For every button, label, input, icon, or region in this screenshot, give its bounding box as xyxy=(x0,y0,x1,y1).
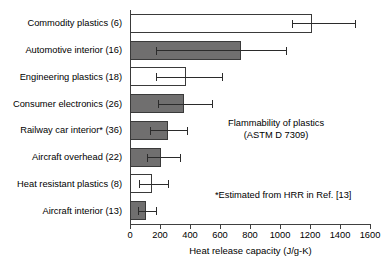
category-label: Consumer electronics (26) xyxy=(0,99,122,109)
error-bar-cap-low xyxy=(150,127,151,135)
error-bar-cap-low xyxy=(138,207,139,215)
error-bar-cap-high xyxy=(156,207,157,215)
chart-annotation-title: Flammability of plastics (ASTM D 7309) xyxy=(228,118,324,141)
error-bar-cap-low xyxy=(139,180,140,188)
x-tick-label: 400 xyxy=(182,230,198,241)
chart-footnote: *Estimated from HRR in Ref. [13] xyxy=(215,190,351,201)
error-bar-cap-high xyxy=(355,20,356,28)
error-bar-line xyxy=(147,157,180,158)
x-tick-label: 800 xyxy=(242,230,258,241)
error-bar-line xyxy=(158,104,212,105)
error-bar-cap-high xyxy=(180,154,181,162)
annotation-line-1: Flammability of plastics xyxy=(228,118,324,130)
category-label: Heat resistant plastics (8) xyxy=(0,179,122,189)
category-label: Aircraft interior (13) xyxy=(0,206,122,216)
error-bar-cap-low xyxy=(156,47,157,55)
category-label: Aircraft overhead (22) xyxy=(0,152,122,162)
x-tick xyxy=(160,225,161,229)
error-bar-cap-low xyxy=(292,20,293,28)
error-bar-line xyxy=(156,77,223,78)
error-bar-line xyxy=(138,211,156,212)
x-tick xyxy=(250,225,251,229)
x-tick xyxy=(190,225,191,229)
category-label: Commodity plastics (6) xyxy=(0,18,122,28)
x-tick xyxy=(370,225,371,229)
x-tick-label: 1600 xyxy=(360,230,381,241)
x-tick-label: 600 xyxy=(212,230,228,241)
category-label: Railway car interior* (36) xyxy=(0,125,122,135)
x-tick-label: 1400 xyxy=(330,230,351,241)
error-bar-line xyxy=(156,50,287,51)
error-bar-cap-high xyxy=(187,127,188,135)
x-tick xyxy=(220,225,221,229)
x-axis-title: Heat release capacity (J/g-K) xyxy=(130,245,371,256)
error-bar-cap-high xyxy=(212,100,213,108)
error-bar-cap-high xyxy=(222,73,223,81)
error-bar-cap-high xyxy=(168,180,169,188)
error-bar-line xyxy=(292,23,355,24)
category-label: Engineering plastics (18) xyxy=(0,72,122,82)
error-bar-cap-low xyxy=(147,154,148,162)
annotation-line-2: (ASTM D 7309) xyxy=(228,130,324,142)
x-tick xyxy=(280,225,281,229)
x-tick xyxy=(130,225,131,229)
x-tick xyxy=(310,225,311,229)
bar xyxy=(130,14,312,33)
category-labels: Commodity plastics (6)Automotive interio… xyxy=(0,0,126,224)
x-tick-label: 0 xyxy=(127,230,132,241)
category-label: Automotive interior (16) xyxy=(0,45,122,55)
error-bar-line xyxy=(150,130,188,131)
error-bar-cap-low xyxy=(156,73,157,81)
error-bar-line xyxy=(139,184,168,185)
error-bar-cap-low xyxy=(158,100,159,108)
bar-chart: Commodity plastics (6)Automotive interio… xyxy=(0,0,381,262)
x-tick-label: 1200 xyxy=(300,230,321,241)
x-tick-label: 1000 xyxy=(270,230,291,241)
x-tick-label: 200 xyxy=(152,230,168,241)
error-bar-cap-high xyxy=(286,47,287,55)
x-tick xyxy=(340,225,341,229)
